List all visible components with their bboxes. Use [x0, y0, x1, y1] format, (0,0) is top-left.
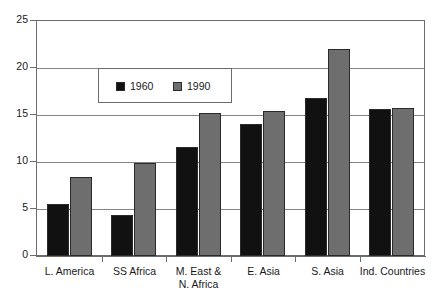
- y-tick-label-15: 15: [0, 108, 28, 119]
- legend-label-1960: 1960: [130, 81, 153, 92]
- bar-chart: 0510152025 L. AmericaSS AfricaM. East &N…: [0, 0, 447, 304]
- y-tick-20: [30, 67, 36, 68]
- bar-1960-group-3: [240, 124, 262, 256]
- bar-1990-group-4: [328, 49, 350, 256]
- y-tick-label-25: 25: [0, 14, 28, 25]
- legend-swatch-1990-icon: [173, 82, 182, 91]
- y-tick-label-0: 0: [0, 249, 28, 260]
- y-tick-25: [30, 20, 36, 21]
- y-tick-label-20: 20: [0, 61, 28, 72]
- bar-1960-group-5: [369, 109, 391, 256]
- x-axis-label-5: Ind. Countries: [352, 265, 433, 278]
- bar-1990-group-5: [392, 108, 414, 256]
- x-tick-1: [166, 257, 167, 262]
- bar-1990-group-1: [134, 163, 156, 256]
- legend-item-1960: 1960: [116, 81, 153, 92]
- legend: 1960 1990: [98, 68, 232, 103]
- bar-1990-group-2: [199, 113, 221, 256]
- bar-1960-group-2: [176, 147, 198, 256]
- y-tick-15: [30, 114, 36, 115]
- y-tick-label-10: 10: [0, 155, 28, 166]
- bars-layer: [37, 21, 425, 256]
- x-tick-4: [360, 257, 361, 262]
- x-tick-3: [295, 257, 296, 262]
- bar-1960-group-4: [305, 98, 327, 256]
- y-tick-10: [30, 161, 36, 162]
- bar-1990-group-0: [70, 177, 92, 256]
- legend-swatch-1960-icon: [116, 82, 125, 91]
- x-tick-2: [231, 257, 232, 262]
- x-axis-label-2-line-1: N. Africa: [158, 278, 239, 291]
- bar-1990-group-3: [263, 111, 285, 256]
- x-axis-label-5-line-0: Ind. Countries: [352, 265, 433, 278]
- legend-item-1990: 1990: [173, 81, 210, 92]
- bar-1960-group-0: [47, 204, 69, 256]
- bar-1960-group-1: [111, 215, 133, 256]
- y-tick-label-5: 5: [0, 202, 28, 213]
- legend-label-1990: 1990: [187, 81, 210, 92]
- x-tick-0: [102, 257, 103, 262]
- y-tick-5: [30, 208, 36, 209]
